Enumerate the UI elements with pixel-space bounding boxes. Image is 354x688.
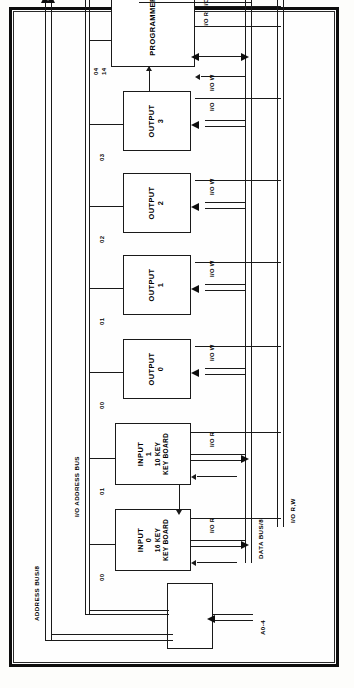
out3-io-label: I/O [209,102,215,111]
address-bus-label: ADDRESS BUS/8 [33,566,40,621]
block-output-0[interactable]: OUTPUT 0 [123,339,191,399]
address-bus-left-drop-b [51,634,173,635]
diagram-rotation-wrapper: INPUT 0 16 KEY KEY BOARD INPUT 1 10 KEY … [0,0,354,688]
out1-iow-label: I/O W [209,260,215,277]
out1-data-shaft-a [205,290,245,291]
address-bus-left-drop-a [45,640,173,641]
in0-data-shaft-b [191,540,245,541]
block-input-1[interactable]: INPUT 1 10 KEY KEY BOARD [115,423,191,485]
out3-iow-line [195,98,281,99]
out0-data-shaft-b [205,368,245,369]
pin-label-output-0: 00 [99,402,105,409]
out3-to-prog-arrowhead [146,66,152,71]
in0-strobe-arrowhead [191,560,196,566]
io-address-bus-drop-b [89,610,169,611]
prog-io-w-drop [195,6,281,7]
io-addr-stub-output-1 [89,288,123,289]
pin-label-input-1: 01 [99,488,105,495]
pin-label-output-1: 01 [99,318,105,325]
in1-ior-label: I/O R [209,432,215,447]
io-rw-rail-b [283,0,284,527]
out0-iow-label: I/O W [209,344,215,361]
out2-iow-label: I/O W [209,178,215,195]
data-bus-label: DATA BUS/8 [257,519,264,559]
prog-data-arrow-down [241,53,249,61]
block-input-1-keys: 10 KEY [154,442,162,467]
a04-line-b [213,614,253,615]
block-output-2[interactable]: OUTPUT 2 [123,173,191,233]
pin-label-programmer-14: 14 [101,68,107,75]
data-bus-rail-b [251,0,252,563]
pin-label-programmer-04: 04 [93,68,99,75]
block-input-0[interactable]: INPUT 0 16 KEY KEY BOARD [115,509,191,571]
io-address-bus-label: I/O ADDRESS BUS [73,456,80,517]
io-addr-stub-input-0 [89,544,115,545]
out1-data-shaft-b [205,284,245,285]
in0-strobe-line [197,562,237,563]
io-addr-stub-input-1 [89,458,115,459]
out1-iow-line [195,262,281,263]
out2-data-shaft-a [205,208,245,209]
in1-data-shaft-a [191,460,245,461]
block-programmer[interactable]: PROGRAMMER [111,0,195,67]
io-address-bus-rail-a [85,0,86,615]
in1-ior-line [191,432,281,433]
block-programmer-title: PROGRAMMER [149,0,158,56]
block-input-0-index: 0 [145,538,154,542]
out2-data-arrowhead [191,203,199,211]
block-input-1-device: KEY BOARD [162,433,170,475]
prog-data-bidir-shaft-v [197,56,245,57]
io-rw-label: I/O R,W [289,498,296,523]
pin-label-output-3: 03 [99,154,105,161]
block-output-3-index: 3 [157,119,166,123]
in1-data-arrowhead [241,455,249,463]
block-input-1-index: 1 [145,452,154,456]
in1-to-in0-arrowhead [176,510,182,515]
in1-to-in0-link [179,485,180,509]
out0-iow-line [195,346,281,347]
out0-data-arrowhead [191,369,199,377]
out1-data-arrowhead [191,285,199,293]
in1-data-shaft-b [191,454,245,455]
block-output-3[interactable]: OUTPUT 3 [123,91,191,151]
diagram-page: INPUT 0 16 KEY KEY BOARD INPUT 1 10 KEY … [0,0,354,688]
address-bus-rail-b [51,0,52,641]
data-bus-rail-a [245,0,246,563]
block-output-0-index: 0 [157,367,166,371]
io-addr-stub-output-2 [89,206,123,207]
io-addr-stub-output-3 [89,124,123,125]
a04-line-a [213,620,253,621]
in0-ior-label: I/O R [209,518,215,533]
address-bus-rail-a [45,0,46,641]
in0-data-arrowhead [241,541,249,549]
in1-strobe-arrowhead [191,474,196,480]
out0-data-shaft-a [205,374,245,375]
io-rw-rail-a [277,0,278,527]
prog-iow-in-arrowhead [195,74,200,80]
io-address-bus-drop-a [85,614,169,615]
block-input-0-keys: 16 KEY [154,528,162,553]
in1-strobe-line [197,476,237,477]
block-output-2-index: 2 [157,201,166,205]
prog-io-r-drop [195,26,281,27]
out3-data-shaft-a [205,126,245,127]
block-output-1[interactable]: OUTPUT 1 [123,255,191,315]
out3-data-arrowhead [191,121,199,129]
io-address-bus-rail-b [89,0,90,615]
prog-iow-in-label: I/O W [209,74,215,91]
schematic-canvas: INPUT 0 16 KEY KEY BOARD INPUT 1 10 KEY … [19,21,335,667]
in0-ior-line [191,518,281,519]
data-bus-prog-riser-a [139,2,251,3]
io-addr-stub-programmer [89,40,111,41]
prog-io-r-label: I/O R [203,12,209,27]
a04-label: A0-4 [259,620,266,635]
a04-arrowhead [207,615,215,623]
out2-data-shaft-b [205,202,245,203]
pin-label-input-0: 00 [99,574,105,581]
address-bus-arrowhead-b [47,0,55,3]
block-input-0-device: KEY BOARD [162,519,170,561]
in0-data-shaft-a [191,546,245,547]
prog-iow-in-line [201,76,245,77]
pin-label-output-2: 02 [99,236,105,243]
block-output-1-index: 1 [157,283,166,287]
